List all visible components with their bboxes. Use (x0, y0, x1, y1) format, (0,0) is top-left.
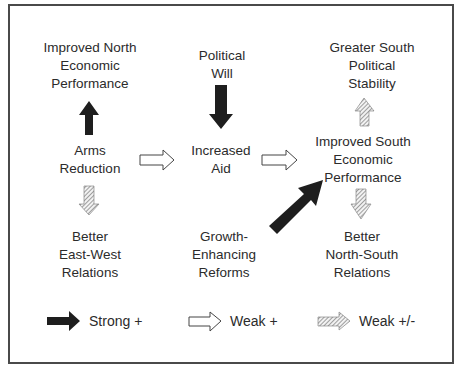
node-line: Will (180, 65, 264, 83)
node-line: Better (312, 228, 412, 246)
node-line: Increased (176, 142, 266, 160)
strong-arrow-diagonal-icon (269, 180, 323, 234)
node-line: Improved South (300, 133, 426, 151)
legend-weak-mixed-label: Weak +/- (359, 313, 415, 329)
legend-strong-arrow-icon (47, 311, 80, 331)
node-line: Aid (176, 160, 266, 178)
node-growth-enhancing-reforms: Growth- Enhancing Reforms (178, 228, 270, 282)
weak-arrow-right-icon (262, 150, 297, 170)
node-line: Performance (28, 75, 152, 93)
node-line: East-West (44, 246, 136, 264)
node-line: Performance (300, 169, 426, 187)
node-improved-north-economic-performance: Improved North Economic Performance (28, 39, 152, 93)
node-improved-south-economic-performance: Improved South Economic Performance (300, 133, 426, 187)
node-increased-aid: Increased Aid (176, 142, 266, 178)
node-line: Enhancing (178, 246, 270, 264)
weak-arrow-right-icon (140, 150, 174, 170)
strong-arrow-down-icon (209, 85, 233, 129)
node-line: Stability (310, 75, 434, 93)
node-greater-south-political-stability: Greater South Political Stability (310, 39, 434, 93)
legend-hatched-arrow-icon (318, 312, 350, 330)
node-line: Better (44, 228, 136, 246)
node-line: Relations (312, 264, 412, 282)
weak-mixed-arrow-up-icon (355, 98, 374, 126)
node-political-will: Political Will (180, 47, 264, 83)
legend-strong-label: Strong + (89, 313, 142, 329)
legend-weak-arrow-icon (189, 312, 221, 331)
node-line: Arms (48, 142, 132, 160)
node-line: North-South (312, 246, 412, 264)
node-line: Political (310, 57, 434, 75)
node-line: Economic (28, 57, 152, 75)
node-line: Improved North (28, 39, 152, 57)
node-line: Political (180, 47, 264, 65)
node-line: Reduction (48, 160, 132, 178)
node-better-east-west-relations: Better East-West Relations (44, 228, 136, 282)
node-line: Economic (300, 151, 426, 169)
node-line: Growth- (178, 228, 270, 246)
node-line: Reforms (178, 264, 270, 282)
weak-mixed-arrow-down-icon (79, 186, 99, 215)
strong-arrow-up-icon (79, 101, 99, 135)
node-line: Greater South (310, 39, 434, 57)
node-arms-reduction: Arms Reduction (48, 142, 132, 178)
weak-mixed-arrow-down-icon (351, 189, 371, 219)
node-line: Relations (44, 264, 136, 282)
node-better-north-south-relations: Better North-South Relations (312, 228, 412, 282)
legend-weak-label: Weak + (230, 313, 278, 329)
